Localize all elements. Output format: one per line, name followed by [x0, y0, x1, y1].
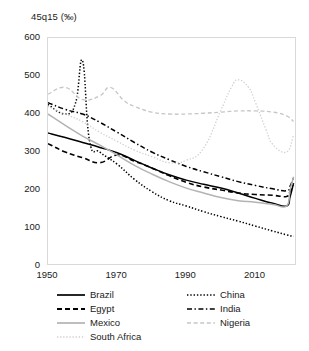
- y-tick-500: 500: [14, 70, 40, 80]
- y-tick-600: 600: [14, 32, 40, 42]
- legend-swatch-icon: [56, 331, 86, 342]
- series-lines: [48, 38, 297, 266]
- legend-label: Brazil: [90, 289, 114, 300]
- legend-label: Nigeria: [220, 317, 250, 328]
- x-tick-1970: 1970: [99, 270, 133, 280]
- legend-swatch-icon: [186, 317, 216, 328]
- legend-label: South Africa: [90, 331, 141, 342]
- y-axis-title: 45q15 (‰): [31, 11, 77, 22]
- x-tick-1990: 1990: [168, 270, 202, 280]
- line-nigeria: [48, 87, 294, 121]
- legend-swatch-icon: [56, 289, 86, 300]
- legend-swatch-icon: [56, 303, 86, 314]
- chart-container: 45q15 (‰) 6005004003002001000 1950197019…: [0, 0, 309, 351]
- legend-label: India: [220, 303, 241, 314]
- legend-swatch-icon: [186, 289, 216, 300]
- legend-label: Mexico: [90, 317, 120, 328]
- legend-label: Egypt: [90, 303, 114, 314]
- line-south-africa: [48, 80, 294, 163]
- legend-swatch-icon: [56, 317, 86, 328]
- line-india: [48, 103, 294, 191]
- x-tick-1950: 1950: [30, 270, 64, 280]
- line-china: [48, 60, 294, 237]
- legend-item-india[interactable]: India: [186, 302, 301, 315]
- y-tick-300: 300: [14, 146, 40, 156]
- legend-item-nigeria[interactable]: Nigeria: [186, 316, 301, 329]
- y-tick-400: 400: [14, 108, 40, 118]
- line-egypt: [48, 144, 294, 197]
- legend-item-brazil[interactable]: Brazil: [56, 288, 176, 301]
- legend-item-mexico[interactable]: Mexico: [56, 316, 176, 329]
- legend-column-right: ChinaIndiaNigeria: [186, 288, 301, 330]
- legend-column-left: BrazilEgyptMexicoSouth Africa: [56, 288, 176, 344]
- legend-swatch-icon: [186, 303, 216, 314]
- legend-item-china[interactable]: China: [186, 288, 301, 301]
- plot-area: [47, 37, 296, 265]
- y-tick-200: 200: [14, 184, 40, 194]
- chart-legend: BrazilEgyptMexicoSouth Africa ChinaIndia…: [56, 288, 301, 340]
- y-tick-100: 100: [14, 222, 40, 232]
- legend-label: China: [220, 289, 245, 300]
- x-tick-2010: 2010: [238, 270, 272, 280]
- legend-item-egypt[interactable]: Egypt: [56, 302, 176, 315]
- line-mexico: [48, 114, 294, 207]
- legend-item-south-africa[interactable]: South Africa: [56, 330, 176, 343]
